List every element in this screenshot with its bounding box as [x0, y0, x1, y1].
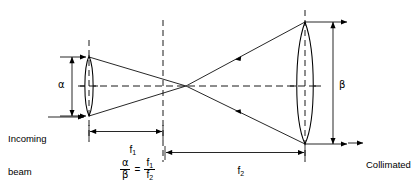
collimated-beam-label-line1: Collimated [366, 159, 414, 170]
beta-label: β [339, 79, 345, 90]
alpha-label: α [58, 79, 65, 90]
converging-rays [89, 57, 186, 116]
magnification-formula: α β = f1 f2 [120, 158, 155, 180]
diverging-rays [186, 22, 305, 144]
incoming-beam-label: Incoming beam [8, 111, 47, 193]
formula-right-fraction: f1 f2 [144, 158, 155, 180]
label-leader-lines [48, 117, 363, 143]
ray-arrow-upper [235, 56, 241, 61]
lens-2-collimator [290, 22, 321, 144]
diagram-canvas [0, 0, 420, 193]
formula-f1: f1 [144, 158, 155, 169]
f2-label: f2 [227, 154, 244, 188]
incoming-beam-label-line1: Incoming [8, 133, 47, 144]
formula-beta: β [120, 169, 130, 181]
optical-beam-expander-diagram: α β f1 f2 Incoming beam Collimated (expa… [0, 0, 420, 193]
formula-f2: f2 [144, 169, 155, 181]
formula-alpha: α [120, 158, 131, 169]
collimated-beam-label: Collimated (expanded) beam [366, 137, 414, 193]
collimated-beam-label-line2: (expanded) [366, 192, 414, 193]
formula-equals: = [131, 164, 145, 175]
formula-left-fraction: α β [120, 158, 131, 180]
incoming-beam-label-line2: beam [8, 166, 47, 177]
